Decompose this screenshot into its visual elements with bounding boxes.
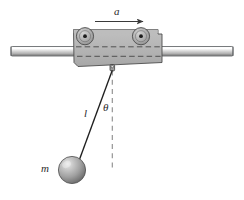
wheel-right-axle-dot	[139, 34, 143, 38]
pivot-eyelet	[110, 65, 115, 71]
pivot-hole	[111, 65, 114, 68]
bob-sphere	[58, 156, 85, 183]
angle-theta-label: θ	[103, 102, 108, 113]
pendulum-on-accelerating-cart-diagram	[0, 0, 244, 200]
trolley-wheel-right	[132, 28, 149, 45]
wheel-left-axle-dot	[83, 34, 87, 38]
trolley-wheel-left	[76, 28, 93, 45]
acceleration-label: a	[114, 6, 120, 17]
pendulum-bob	[58, 156, 85, 183]
string-length-label: l	[84, 108, 87, 119]
mass-label: m	[41, 163, 49, 174]
